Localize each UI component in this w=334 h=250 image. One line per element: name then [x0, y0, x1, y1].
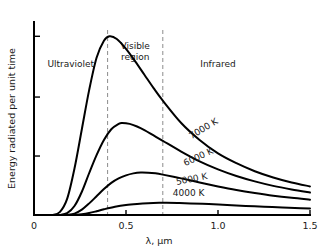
curve-4000-k: [74, 203, 310, 215]
curve-6000-k: [60, 123, 310, 215]
x-tick-label-0: 0: [31, 220, 37, 231]
region-label-ultraviolet: Ultraviolet: [47, 59, 94, 69]
blackbody-radiation-figure: 00.51.01.5Energy radiated per unit timeλ…: [0, 0, 334, 250]
x-tick-label-3: 1.5: [302, 220, 317, 231]
series-label-6000-k: 6000 K: [182, 145, 216, 168]
chart-axes: [34, 22, 310, 215]
x-tick-label-2: 1.0: [210, 220, 225, 231]
series-label-7000-k: 7000 K: [187, 115, 220, 140]
region-label-infrared: Infrared: [200, 59, 236, 69]
region-label-visible-region-line1: Visible: [120, 41, 150, 51]
x-tick-label-1: 0.5: [118, 220, 133, 231]
x-axis-title: λ, μm: [146, 235, 173, 246]
series-label-4000-k: 4000 K: [173, 188, 206, 198]
blackbody-spectrum-chart: 00.51.01.5Energy radiated per unit timeλ…: [0, 0, 334, 250]
y-axis-title: Energy radiated per unit time: [6, 48, 17, 189]
